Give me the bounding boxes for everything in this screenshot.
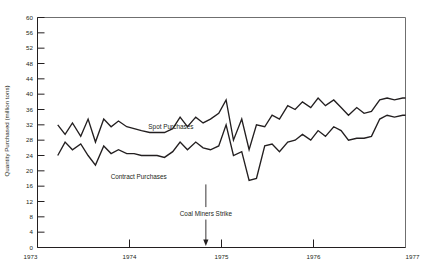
y-tick-label-20: 20 (26, 167, 33, 174)
x-tick-label-1974: 1974 (123, 253, 137, 260)
annotations: Coal Miners Strike (180, 184, 233, 246)
x-axis: 19731974197519761977 (24, 240, 420, 260)
annotation-label-coal-miners-strike: Coal Miners Strike (180, 210, 233, 217)
x-tick-label-1973: 1973 (24, 253, 38, 260)
y-axis-title-group: Quantity Purchased (million tons) (3, 85, 10, 176)
y-tick-label-0: 0 (30, 244, 34, 251)
y-tick-label-32: 32 (26, 121, 33, 128)
y-tick-label-28: 28 (26, 136, 33, 143)
y-tick-label-48: 48 (26, 60, 33, 67)
annotation-arrow-head (203, 240, 208, 247)
y-tick-label-44: 44 (26, 75, 33, 82)
series-label-spot-purchases: Spot Purchases (148, 123, 193, 131)
y-tick-label-16: 16 (26, 182, 33, 189)
data-series-group (58, 98, 406, 180)
y-axis-title: Quantity Purchased (million tons) (3, 85, 10, 176)
chart-canvas: 04812162024283236404448525660 1973197419… (0, 0, 423, 274)
y-tick-label-52: 52 (26, 44, 33, 51)
chart-figure: 04812162024283236404448525660 1973197419… (0, 0, 423, 274)
y-tick-label-40: 40 (26, 90, 33, 97)
series-label-contract-purchases: Contract Purchases (111, 173, 167, 180)
x-tick-label-1977: 1977 (406, 253, 420, 260)
y-tick-label-12: 12 (26, 198, 33, 205)
y-tick-label-24: 24 (26, 152, 33, 159)
x-tick-label-1976: 1976 (307, 253, 321, 260)
x-tick-label-1975: 1975 (215, 253, 229, 260)
y-tick-label-60: 60 (26, 14, 33, 21)
y-tick-label-4: 4 (30, 228, 34, 235)
y-axis: 04812162024283236404448525660 (26, 14, 44, 251)
series-line-spot-purchases (58, 98, 406, 150)
y-tick-label-8: 8 (30, 213, 34, 220)
y-tick-label-36: 36 (26, 106, 33, 113)
y-tick-label-56: 56 (26, 29, 33, 36)
